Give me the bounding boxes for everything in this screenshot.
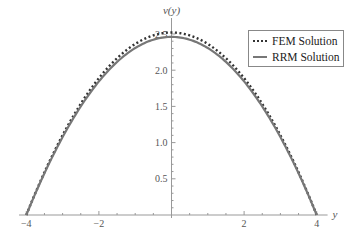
- y-tick-label: 2.0: [155, 65, 168, 76]
- legend-item-rrm: RRM Solution: [253, 49, 339, 65]
- x-tick-label: 4: [314, 218, 319, 229]
- x-axis-label: y: [332, 208, 338, 220]
- y-tick-label: 1.0: [155, 137, 168, 148]
- y-tick-label: 0.5: [155, 173, 168, 184]
- solid-line-swatch-icon: [253, 56, 267, 58]
- legend-item-fem: FEM Solution: [253, 33, 338, 49]
- legend-label: RRM Solution: [272, 51, 339, 63]
- legend: FEM Solution RRM Solution: [248, 30, 344, 67]
- dotted-line-swatch-icon: [253, 40, 267, 42]
- legend-label: FEM Solution: [272, 35, 338, 47]
- x-tick-label: −2: [94, 218, 105, 229]
- y-tick-label: 1.5: [155, 101, 168, 112]
- x-tick-label: −4: [21, 218, 32, 229]
- x-tick-label: 2: [242, 218, 247, 229]
- y-axis-label: v(y): [163, 4, 180, 17]
